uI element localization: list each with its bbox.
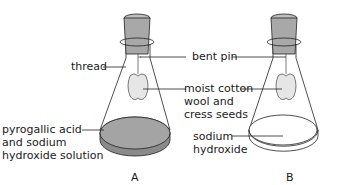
seed-bundle-a: [128, 54, 148, 100]
stopper-a: [120, 14, 154, 54]
label-moist-cotton-line2: wool and: [184, 96, 234, 108]
label-bent-pin: bent pin: [192, 51, 238, 63]
label-sodium-line2: hydroxide: [193, 144, 247, 156]
label-thread: thread: [71, 61, 107, 73]
label-pyrogallic-line3: hydroxide solution: [2, 150, 104, 162]
label-pyrogallic-line2: and sodium: [2, 137, 66, 149]
flask-a: [100, 44, 170, 156]
flask-a-label: A: [131, 172, 139, 184]
label-sodium-line1: sodium: [193, 131, 233, 143]
flask-b-label: B: [286, 172, 294, 184]
label-moist-cotton-line3: cress seeds: [184, 109, 248, 121]
seed-bundle-b: [276, 54, 296, 100]
label-moist-cotton-line1: moist cotton: [184, 83, 253, 95]
label-pyrogallic-line1: pyrogallic acid: [2, 124, 82, 136]
